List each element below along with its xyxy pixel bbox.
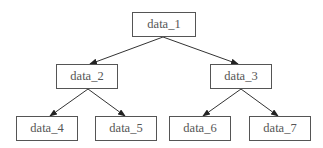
edge-data_3-data_6	[203, 89, 241, 116]
edge-data_3-data_7	[241, 89, 278, 116]
node-data_3: data_3	[210, 64, 272, 89]
edge-data_2-data_5	[88, 89, 125, 116]
node-data_4: data_4	[16, 116, 78, 141]
node-data_5: data_5	[95, 116, 157, 141]
node-data_1: data_1	[132, 12, 196, 37]
edge-data_2-data_4	[50, 89, 88, 116]
node-data_7: data_7	[249, 116, 311, 141]
edge-data_1-data_3	[163, 37, 238, 64]
edge-data_1-data_2	[90, 37, 163, 64]
node-data_6: data_6	[169, 116, 231, 141]
node-data_2: data_2	[56, 64, 118, 89]
